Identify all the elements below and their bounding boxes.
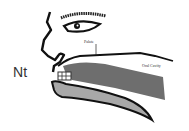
oral-cavity-label: Oral Cavity [142, 63, 161, 68]
eye [64, 21, 100, 31]
mouth-diagram: Nt Palate Oral Cavity [0, 0, 189, 131]
phoneme-label: Nt [13, 64, 27, 80]
eyebrow [61, 13, 106, 18]
palate-label: Palate [84, 39, 94, 44]
